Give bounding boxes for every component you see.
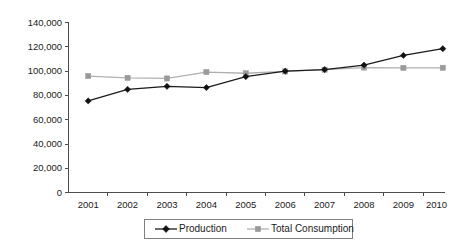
square-marker-icon [255, 226, 260, 231]
chart-legend: Production Total Consumption [145, 220, 354, 239]
data-point-square [401, 65, 406, 70]
y-axis-ticks [65, 23, 69, 193]
y-tick-label: 140,000 [28, 17, 62, 28]
data-point-diamond [203, 84, 209, 90]
x-tick-label: 2009 [393, 199, 414, 210]
x-tick-label: 2007 [314, 199, 335, 210]
y-axis-tick-labels: 140,000 120,000 100,000 80,000 60,000 40… [28, 17, 62, 198]
data-point-diamond [440, 46, 446, 52]
series-layer [85, 46, 446, 104]
x-tick-label: 2006 [275, 199, 296, 210]
x-tick-label: 2008 [353, 199, 374, 210]
line-chart: 140,000 120,000 100,000 80,000 60,000 40… [0, 0, 457, 251]
data-point-diamond [400, 52, 406, 58]
x-tick-label: 2001 [78, 199, 99, 210]
y-tick-label: 40,000 [33, 138, 62, 149]
data-point-diamond [125, 86, 131, 92]
data-point-diamond [85, 98, 91, 104]
x-tick-label: 2004 [196, 199, 217, 210]
data-point-square [86, 73, 91, 78]
data-point-square [204, 69, 209, 74]
chart-canvas: 140,000 120,000 100,000 80,000 60,000 40… [0, 0, 457, 251]
y-tick-label: 80,000 [33, 89, 62, 100]
series-total-consumption [86, 65, 446, 81]
x-tick-label: 2005 [235, 199, 256, 210]
legend-label-production: Production [179, 223, 227, 234]
series-production [85, 46, 446, 104]
x-tick-label: 2002 [117, 199, 138, 210]
data-point-square [440, 65, 445, 70]
data-point-diamond [164, 83, 170, 89]
y-tick-label: 100,000 [28, 65, 62, 76]
data-point-square [125, 75, 130, 80]
y-tick-label: 0 [57, 187, 62, 198]
series-line [88, 68, 443, 79]
x-tick-label: 2003 [156, 199, 177, 210]
y-tick-label: 60,000 [33, 114, 62, 125]
x-axis-tick-labels: 2001 2002 2003 2004 2005 2006 2007 2008 … [78, 199, 447, 210]
legend-label-total-consumption: Total Consumption [271, 223, 354, 234]
y-tick-label: 120,000 [28, 41, 62, 52]
series-line [88, 49, 443, 101]
x-axis-ticks [108, 193, 423, 197]
data-point-square [164, 76, 169, 81]
y-tick-label: 20,000 [33, 162, 62, 173]
x-tick-label: 2010 [426, 199, 447, 210]
